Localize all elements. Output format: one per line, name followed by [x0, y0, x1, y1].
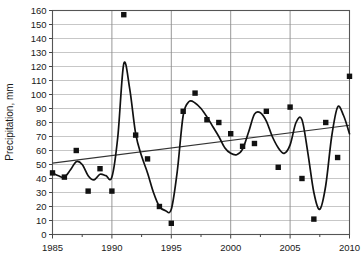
x-tick-label: 1990 [101, 242, 122, 253]
data-point-marker [180, 109, 185, 114]
data-point-marker [264, 109, 269, 114]
y-axis-title: Precipitation, mm [4, 83, 15, 160]
y-tick-label: 40 [36, 173, 47, 184]
y-tick-label: 20 [36, 201, 47, 212]
data-point-marker [74, 148, 79, 153]
data-point-marker [216, 120, 221, 125]
data-point-marker [157, 204, 162, 209]
data-point-marker [228, 131, 233, 136]
precipitation-scatter-chart: 0102030405060708090100110120130140150160… [0, 0, 364, 258]
data-point-marker [287, 104, 292, 109]
data-point-marker [85, 188, 90, 193]
data-point-marker [62, 174, 67, 179]
y-tick-label: 130 [31, 47, 47, 58]
data-point-marker [204, 117, 209, 122]
y-tick-label: 80 [36, 117, 47, 128]
data-point-marker [347, 74, 352, 79]
y-tick-label: 90 [36, 103, 47, 114]
x-tick-label: 2005 [280, 242, 301, 253]
data-point-marker [97, 166, 102, 171]
data-point-marker [299, 176, 304, 181]
y-tick-label: 120 [31, 61, 47, 72]
x-tick-label: 1995 [161, 242, 182, 253]
y-tick-label: 0 [41, 229, 46, 240]
data-point-marker [276, 165, 281, 170]
data-point-marker [252, 141, 257, 146]
x-tick-label: 2000 [220, 242, 241, 253]
data-point-marker [240, 144, 245, 149]
data-point-marker [169, 221, 174, 226]
data-point-marker [145, 156, 150, 161]
data-point-marker [133, 132, 138, 137]
y-tick-label: 110 [31, 75, 46, 86]
y-tick-label: 100 [31, 89, 47, 100]
y-tick-label: 10 [36, 215, 47, 226]
y-tick-label: 150 [31, 19, 47, 30]
y-tick-label: 30 [36, 187, 47, 198]
data-point-marker [50, 170, 55, 175]
x-tick-label: 1985 [42, 242, 63, 253]
data-point-marker [109, 188, 114, 193]
y-tick-label: 140 [31, 33, 47, 44]
x-tick-label: 2010 [339, 242, 360, 253]
y-tick-label: 70 [36, 131, 47, 142]
y-tick-label: 160 [31, 5, 47, 16]
data-point-marker [323, 120, 328, 125]
data-point-marker [311, 216, 316, 221]
y-tick-label: 60 [36, 145, 47, 156]
data-point-marker [121, 12, 126, 17]
chart-figure: 0102030405060708090100110120130140150160… [0, 0, 364, 258]
data-point-marker [335, 155, 340, 160]
data-point-marker [192, 90, 197, 95]
y-tick-label: 50 [36, 159, 47, 170]
